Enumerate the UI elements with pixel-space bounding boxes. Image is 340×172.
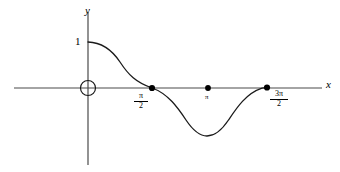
point-marker-pi [205, 85, 211, 91]
cosine-curve-main [88, 42, 268, 136]
tick-label-three-pi-over-2-numerator: 3π [270, 90, 288, 98]
tick-label-three-pi-over-2: 3π 2 [270, 90, 288, 108]
tick-label-pi-over-2-numerator: π [134, 92, 148, 100]
tick-label-pi-over-2: π 2 [134, 92, 148, 110]
tick-label-pi-over-2-denominator: 2 [134, 101, 148, 110]
y-value-label-one: 1 [75, 36, 81, 47]
cosine-graph-figure: y x 1 π 2 π 3π 2 [0, 0, 340, 172]
tick-label-three-pi-over-2-denominator: 2 [270, 99, 288, 108]
y-axis-label: y [85, 5, 90, 16]
tick-label-pi: π [205, 94, 209, 101]
x-axis-label: x [326, 79, 331, 90]
point-marker-pi-over-2 [149, 85, 155, 91]
graph-canvas [0, 0, 340, 172]
